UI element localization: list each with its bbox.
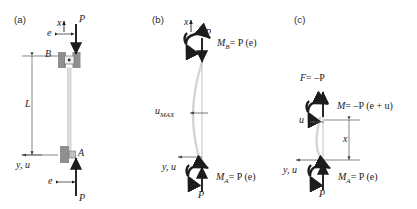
support-a-block xyxy=(60,146,69,163)
panel-b: (b) x P MB= P (e) uMAX y xyxy=(140,0,280,209)
internal-force-label: F= –P xyxy=(300,73,325,83)
moment-bottom-label-b: MA= P (e) xyxy=(216,172,256,185)
panel-c: (c) F= –P M= –P (e + u) xyxy=(280,0,417,209)
load-label-top-a: P xyxy=(79,14,85,24)
load-label-bottom-a: P xyxy=(79,193,85,203)
panel-a: (a) xyxy=(0,0,140,209)
moment-bottom-rhs-b: = P (e) xyxy=(229,171,256,182)
moment-top-rhs: = P (e) xyxy=(230,37,257,48)
length-label: L xyxy=(25,99,31,109)
eccentricity-label-bottom-a: e xyxy=(48,176,52,186)
umax-label: uMAX xyxy=(155,106,174,119)
support-a-collar xyxy=(69,151,76,158)
axis-y-label-b: y, u xyxy=(162,162,176,172)
figure-root: (a) xyxy=(0,0,417,209)
internal-moment-arrow xyxy=(308,102,328,112)
base-moment-arrow xyxy=(310,166,330,176)
column-shaft xyxy=(68,68,72,158)
axis-y-label-c: y, u xyxy=(283,165,297,175)
moment-bottom-rhs-c: = P (e) xyxy=(351,171,378,182)
support-b-label: B xyxy=(45,49,51,59)
internal-moment-label: M= –P (e + u) xyxy=(337,101,393,111)
internal-force-rhs: = –P xyxy=(306,72,325,83)
umax-subscript: MAX xyxy=(160,111,174,119)
load-label-bottom-b: P xyxy=(198,190,204,200)
eccentricity-label-top-a: e xyxy=(47,28,51,38)
axis-y-label-a: y, u xyxy=(16,160,30,170)
moment-top-label: MB= P (e) xyxy=(217,38,257,51)
moment-arrow-bottom xyxy=(188,166,208,176)
load-label-top-b: P xyxy=(205,28,211,38)
support-b-pin xyxy=(68,59,71,62)
deflected-shape-curve xyxy=(193,62,202,168)
support-a-label: A xyxy=(78,148,84,158)
internal-moment-rhs: = –P (e + u) xyxy=(345,100,393,111)
segment-deflected-shape xyxy=(317,117,323,163)
load-label-base-c: P xyxy=(319,189,325,199)
axis-x-label-a: x xyxy=(57,18,61,28)
moment-bottom-label-c: MA= P (e) xyxy=(338,172,378,185)
displacement-label: u xyxy=(299,115,304,125)
panel-a-graphics xyxy=(0,0,140,209)
axis-x-label-b: x xyxy=(184,17,188,27)
coordinate-label: x xyxy=(343,134,347,144)
